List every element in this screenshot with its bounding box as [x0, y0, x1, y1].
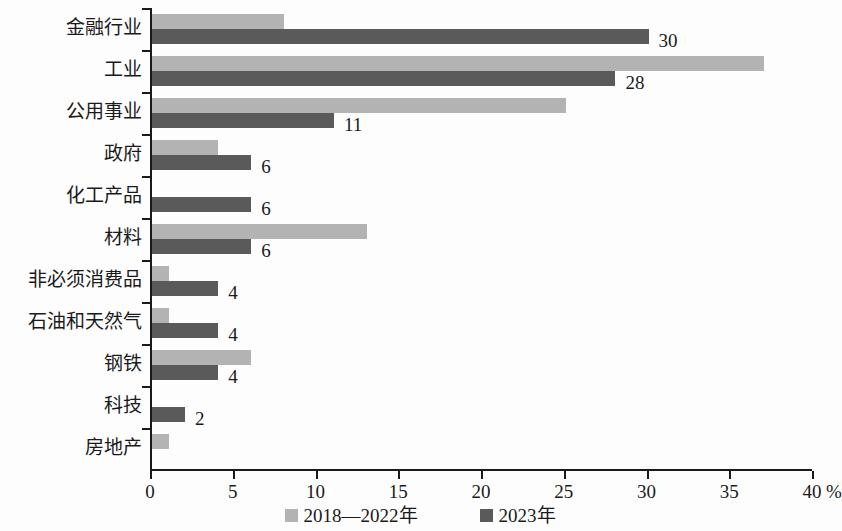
x-axis-tick	[398, 471, 400, 479]
category-label-7: 石油和天然气	[0, 311, 142, 333]
bar-value-label-1: 28	[625, 72, 644, 93]
y-axis-tick	[142, 428, 150, 430]
bar-value-label-0: 30	[659, 30, 678, 51]
x-axis-tick-label-6: 30	[637, 481, 656, 503]
x-axis-tick-label-5: 25	[554, 481, 573, 503]
legend-swatch-icon	[285, 509, 298, 522]
x-axis-tick-label-8: 40	[803, 481, 822, 503]
bar-prev-10	[152, 434, 169, 449]
category-label-1: 工业	[0, 59, 142, 81]
y-axis-tick	[142, 134, 150, 136]
category-label-6: 非必须消费品	[0, 269, 142, 291]
x-axis-tick-label-3: 15	[389, 481, 408, 503]
bar-prev-1	[152, 56, 764, 71]
x-axis-tick	[233, 471, 235, 479]
category-label-10: 房地产	[0, 437, 142, 459]
bar-value-label-9: 2	[195, 408, 205, 429]
x-axis-tick	[564, 471, 566, 479]
bar-prev-6	[152, 266, 169, 281]
legend-swatch-icon	[480, 509, 493, 522]
y-axis-tick	[142, 8, 150, 10]
bar-value-label-5: 6	[261, 240, 271, 261]
bar-prev-0	[152, 14, 284, 29]
category-label-4: 化工产品	[0, 185, 142, 207]
x-axis-tick-label-1: 5	[228, 481, 238, 503]
category-label-0: 金融行业	[0, 17, 142, 39]
x-axis-tick	[647, 471, 649, 479]
bar-value-label-4: 6	[261, 198, 271, 219]
bar-curr-3	[152, 155, 251, 170]
bar-curr-0	[152, 29, 649, 44]
x-axis-tick-label-7: 35	[720, 481, 739, 503]
bar-curr-4	[152, 197, 251, 212]
bar-prev-8	[152, 350, 251, 365]
chart-legend: 2018—2022年2023年	[0, 505, 840, 526]
category-label-3: 政府	[0, 143, 142, 165]
x-axis-tick-label-2: 10	[306, 481, 325, 503]
plot-area: 3028116664442	[150, 8, 812, 470]
bar-curr-5	[152, 239, 251, 254]
bar-value-label-2: 11	[344, 114, 362, 135]
legend-label: 2023年	[499, 505, 556, 526]
y-axis-tick	[142, 218, 150, 220]
x-axis-tick-label-4: 20	[472, 481, 491, 503]
x-axis-tick	[812, 471, 814, 479]
category-label-5: 材料	[0, 227, 142, 249]
x-axis-tick	[150, 471, 152, 479]
legend-label: 2018—2022年	[304, 505, 418, 526]
legend-item-1[interactable]: 2023年	[480, 505, 556, 526]
bar-curr-2	[152, 113, 334, 128]
bar-prev-7	[152, 308, 169, 323]
y-axis-tick	[142, 386, 150, 388]
legend-item-0[interactable]: 2018—2022年	[285, 505, 418, 526]
category-label-9: 科技	[0, 395, 142, 417]
bar-value-label-6: 4	[228, 282, 238, 303]
y-axis-tick	[142, 260, 150, 262]
x-axis-tick	[481, 471, 483, 479]
y-axis-tick	[142, 50, 150, 52]
x-axis-tick	[729, 471, 731, 479]
bar-curr-7	[152, 323, 218, 338]
bar-curr-6	[152, 281, 218, 296]
x-axis-tick-label-0: 0	[145, 481, 155, 503]
bar-prev-5	[152, 224, 367, 239]
category-label-8: 钢铁	[0, 353, 142, 375]
category-label-2: 公用事业	[0, 101, 142, 123]
bar-curr-9	[152, 407, 185, 422]
y-axis-tick	[142, 176, 150, 178]
bar-prev-3	[152, 140, 218, 155]
bar-curr-8	[152, 365, 218, 380]
y-axis-tick	[142, 344, 150, 346]
x-axis-unit-label: %	[826, 481, 842, 503]
bar-value-label-8: 4	[228, 366, 238, 387]
bar-prev-2	[152, 98, 566, 113]
y-axis-tick	[142, 302, 150, 304]
x-axis-tick	[316, 471, 318, 479]
bar-value-label-3: 6	[261, 156, 271, 177]
bar-curr-1	[152, 71, 615, 86]
y-axis-tick	[142, 92, 150, 94]
bar-value-label-7: 4	[228, 324, 238, 345]
